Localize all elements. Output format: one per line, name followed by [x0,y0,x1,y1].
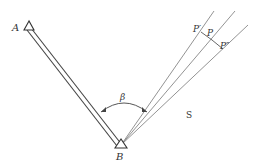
arc-arrow-left [101,107,106,112]
label-beta: β [119,92,125,102]
label-p: P [206,28,214,38]
station-a-icon [24,21,34,30]
rays-from-b [121,11,248,145]
ray-p [121,11,235,145]
label-b: B [115,151,123,162]
label-p-double-prime: P″ [219,41,230,51]
label-a: A [11,22,19,33]
baseline-ab [27,28,122,146]
label-s: S [186,110,192,120]
beta-arc [101,103,147,112]
survey-diagram: A B β P′ P P″ S [0,0,257,166]
arc-arrow-right [142,107,147,112]
label-p-prime: P′ [192,24,201,34]
